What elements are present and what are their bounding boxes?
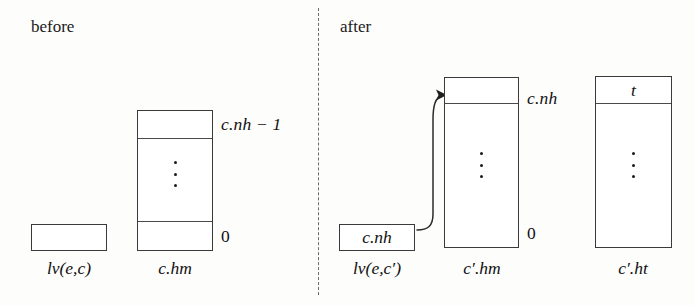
caption-cprime-ht: c′.ht <box>585 258 681 279</box>
index-label-bottom-after: 0 <box>527 223 536 244</box>
table-block-after-divider-top <box>596 103 671 104</box>
ellipsis-heap-after <box>480 152 483 178</box>
index-label-bottom-before: 0 <box>221 226 230 247</box>
local-var-box-before <box>31 224 107 251</box>
local-var-box-after: c.nh <box>339 224 415 251</box>
heap-block-before-divider-top <box>138 138 212 139</box>
caption-cprime-hm: c′.hm <box>434 258 530 279</box>
ellipsis-heap-before <box>174 161 177 187</box>
table-block-top-cell-value: t <box>631 80 636 101</box>
local-var-value-before <box>32 225 106 250</box>
dashed-vertical-divider <box>318 8 319 295</box>
index-label-top-before: c.nh − 1 <box>221 114 282 135</box>
section-label-before: before <box>31 17 74 37</box>
caption-lv-e-c: lv(e,c) <box>21 258 117 279</box>
local-var-value-after: c.nh <box>340 225 414 250</box>
ellipsis-table-after <box>632 152 635 178</box>
caption-lv-e-cprime: lv(e,c′) <box>327 258 427 279</box>
heap-block-before-divider-bottom <box>138 221 212 222</box>
table-block-top-cell: t <box>596 77 671 103</box>
caption-c-hm: c.hm <box>127 258 223 279</box>
before-after-heap-diagram: before lv(e,c) c.nh − 1 0 c.hm after c.n… <box>0 0 694 305</box>
index-label-top-after: c.nh <box>527 88 557 109</box>
heap-block-after-divider-top <box>445 103 518 104</box>
section-label-after: after <box>340 17 371 37</box>
